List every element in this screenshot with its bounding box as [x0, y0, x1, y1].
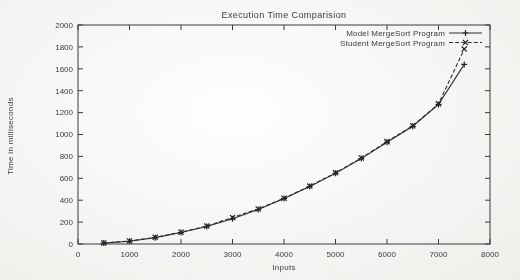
x-tick-label: 7000	[430, 250, 448, 259]
x-tick-label: 2000	[172, 250, 190, 259]
y-tick-label: 800	[60, 152, 74, 161]
data-point-markers-model	[101, 61, 468, 246]
x-tick-label: 0	[76, 250, 81, 259]
y-tick-label: 1800	[55, 43, 73, 52]
x-tick-label: 3000	[224, 250, 242, 259]
execution-time-chart: Execution Time Comparision 0100020003000…	[0, 0, 520, 280]
y-tick-label: 2000	[55, 21, 73, 30]
y-tick-label: 400	[60, 196, 74, 205]
x-tick-label: 1000	[121, 250, 139, 259]
data-point-markers-student	[101, 46, 467, 245]
y-tick-label: 200	[60, 218, 74, 227]
y-tick-label: 1400	[55, 87, 73, 96]
chart-legend: Model MergeSort ProgramStudent MergeSort…	[340, 29, 482, 48]
y-tick-label: 0	[69, 240, 74, 249]
x-tick-label: 8000	[481, 250, 499, 259]
legend-marker	[463, 30, 469, 36]
series-line-model	[104, 64, 465, 243]
series-line-student	[104, 49, 465, 243]
x-tick-label: 6000	[378, 250, 396, 259]
plot-border	[78, 25, 490, 244]
legend-label: Model MergeSort Program	[346, 29, 445, 38]
plot-area: 0100020003000400050006000700080000200400…	[55, 21, 499, 259]
y-tick-label: 1200	[55, 108, 73, 117]
x-axis-label: Inputs	[272, 263, 296, 272]
y-tick-label: 1600	[55, 65, 73, 74]
chart-title: Execution Time Comparision	[222, 10, 347, 20]
scanned-chart-page: Execution Time Comparision 0100020003000…	[0, 0, 520, 280]
x-tick-label: 4000	[275, 250, 293, 259]
y-axis-label: Time in milliseconds	[6, 97, 15, 175]
legend-label: Student MergeSort Program	[340, 39, 445, 48]
y-tick-label: 1000	[55, 130, 73, 139]
y-tick-label: 600	[60, 174, 74, 183]
x-tick-label: 5000	[327, 250, 345, 259]
series-layer	[101, 46, 468, 246]
